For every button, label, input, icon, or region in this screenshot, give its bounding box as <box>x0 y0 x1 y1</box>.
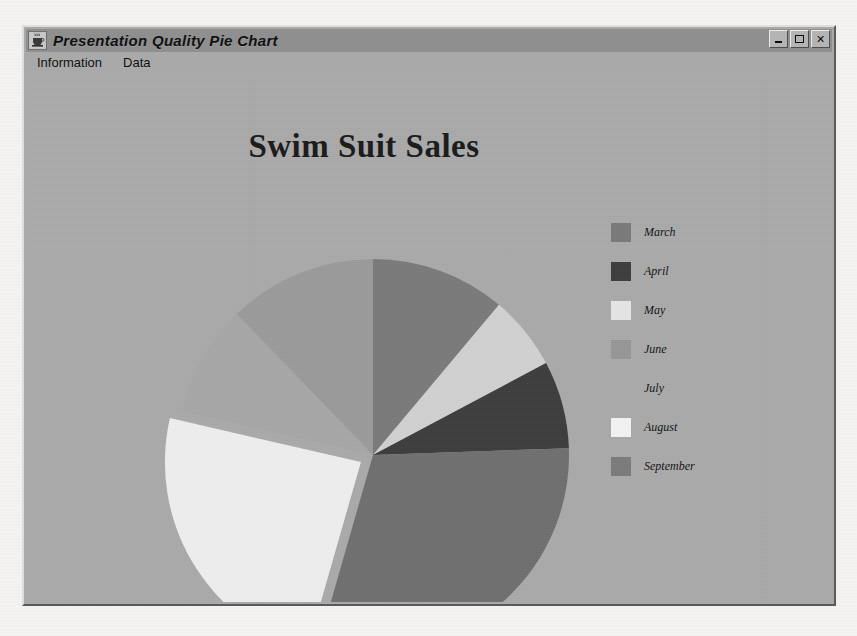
legend-label-august: August <box>644 420 677 435</box>
minimize-icon <box>770 31 787 47</box>
legend-swatch-july <box>611 379 631 398</box>
legend-swatch-may <box>611 301 631 320</box>
legend-swatch-june <box>611 340 631 359</box>
chart-legend: MarchAprilMayJuneJulyAugustSeptember <box>611 213 781 486</box>
title-bar[interactable]: Presentation Quality Pie Chart ✕ <box>26 29 832 52</box>
application-window: Presentation Quality Pie Chart ✕ Informa… <box>22 25 836 606</box>
menu-bar: Information Data <box>26 52 832 74</box>
window-controls: ✕ <box>769 30 830 48</box>
legend-label-july: July <box>644 381 664 396</box>
legend-item[interactable]: August <box>611 408 781 447</box>
legend-item[interactable]: April <box>611 252 781 291</box>
legend-swatch-april <box>611 262 631 281</box>
chart-client-area: Swim Suit Sales MarchAprilMayJuneJulyAug… <box>26 73 832 602</box>
pie-slice-august[interactable] <box>165 418 361 602</box>
legend-label-may: May <box>644 303 665 318</box>
window-title: Presentation Quality Pie Chart <box>53 32 278 49</box>
legend-item[interactable]: September <box>611 447 781 486</box>
close-icon: ✕ <box>812 31 829 47</box>
java-coffee-cup-icon <box>28 31 47 50</box>
legend-swatch-september <box>611 457 631 476</box>
legend-item[interactable]: July <box>611 369 781 408</box>
legend-label-march: March <box>644 225 676 240</box>
legend-item[interactable]: March <box>611 213 781 252</box>
legend-swatch-august <box>611 418 631 437</box>
legend-label-september: September <box>644 459 695 474</box>
minimize-button[interactable] <box>769 30 788 48</box>
maximize-button[interactable] <box>790 30 809 48</box>
legend-swatch-march <box>611 223 631 242</box>
legend-item[interactable]: June <box>611 330 781 369</box>
menu-item-data[interactable]: Data <box>120 54 159 72</box>
pie-slice-group <box>165 259 569 602</box>
legend-item[interactable]: May <box>611 291 781 330</box>
close-button[interactable]: ✕ <box>811 30 830 48</box>
legend-label-april: April <box>644 264 669 279</box>
menu-item-information[interactable]: Information <box>34 54 111 72</box>
legend-label-june: June <box>644 342 667 357</box>
maximize-icon <box>791 31 808 47</box>
